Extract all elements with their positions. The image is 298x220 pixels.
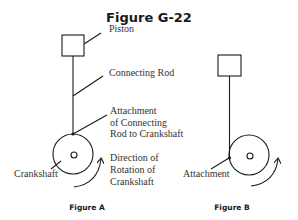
attachment-label-line-2: of Connecting bbox=[110, 117, 167, 128]
direction-label-line-1: Direction of bbox=[110, 152, 159, 163]
piston-leader-line bbox=[84, 33, 101, 44]
piston-label: Piston bbox=[109, 23, 134, 34]
attachment-label-line-1: Attachment bbox=[110, 105, 157, 116]
attachment-label: Attachment bbox=[183, 168, 230, 179]
diagram-canvas: Figure G-22 Piston Connecting Rod Attach… bbox=[0, 0, 298, 220]
figure-a-caption: Figure A bbox=[69, 203, 105, 212]
attachment-leader-line bbox=[73, 115, 107, 134]
crankshaft-circle bbox=[229, 135, 269, 175]
crankshaft-center bbox=[71, 152, 77, 158]
connecting-rod-leader-line bbox=[73, 76, 103, 96]
piston-shape bbox=[218, 55, 241, 76]
direction-label-line-3: Crankshaft bbox=[110, 176, 154, 187]
crankshaft-center bbox=[247, 153, 253, 159]
figure-b-caption: Figure B bbox=[214, 203, 250, 212]
figure-a: Piston Connecting Rod Attachment of Conn… bbox=[14, 23, 184, 212]
direction-label-line-2: Rotation of bbox=[110, 164, 156, 175]
attachment-label-line-3: Rod to Crankshaft bbox=[110, 128, 184, 139]
piston-shape bbox=[62, 35, 84, 56]
figure-b: Attachment Figure B bbox=[183, 55, 278, 212]
crankshaft-circle bbox=[53, 134, 93, 174]
crankshaft-label: Crankshaft bbox=[14, 168, 58, 179]
connecting-rod-label: Connecting Rod bbox=[109, 67, 174, 78]
rotation-arrow-icon bbox=[251, 159, 278, 186]
